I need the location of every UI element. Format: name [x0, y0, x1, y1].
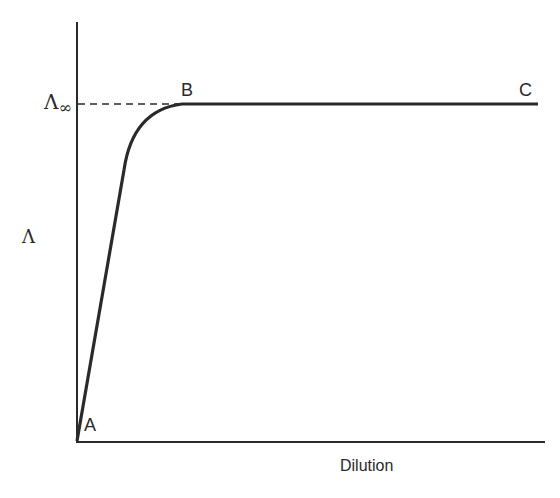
x-axis-label: Dilution	[340, 457, 393, 475]
y-axis-label: Λ	[22, 226, 35, 247]
point-a-label: A	[84, 415, 96, 436]
limit-label: Λ∞	[44, 90, 72, 114]
point-b-label: B	[181, 80, 193, 101]
limit-subscript: ∞	[58, 98, 71, 117]
conductivity-curve	[77, 104, 538, 441]
limit-symbol: Λ	[44, 90, 58, 114]
point-c-label: C	[519, 80, 532, 101]
